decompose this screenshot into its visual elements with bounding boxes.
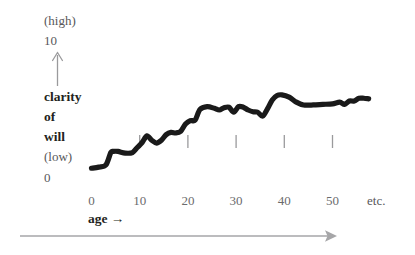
- figure-root: (high) 10 clarity of will (low) 0 age → …: [0, 0, 415, 255]
- right-arrow-icon: [20, 230, 337, 242]
- x-axis-interior-ticks: [140, 135, 333, 148]
- clarity-of-will-curve: [92, 95, 369, 168]
- up-arrow-icon: [53, 53, 63, 87]
- figure-vector-layer: [0, 0, 415, 255]
